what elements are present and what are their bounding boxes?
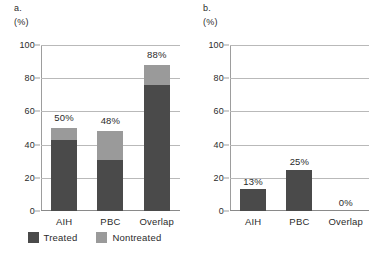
panel-a-bar-aih[interactable] (51, 128, 77, 211)
legend-label-nontreated: Nontreated (112, 232, 161, 243)
panel-a-segment-nontreated-overlap (144, 65, 170, 85)
panel-b-ytick-dash-100 (224, 45, 229, 46)
panel-b-bar-value-overlap: 0% (339, 197, 353, 208)
panel-b-plot-area: 100 80 60 40 20 0 13% AIH 25% PBC (230, 45, 369, 211)
panel-a-ytick-label-20: 20 (25, 173, 35, 183)
panel-a-ytick-dash-0 (35, 211, 40, 212)
panel-a-bar-slot-pbc: 48% PBC (87, 45, 133, 211)
panel-b-category-label-pbc: PBC (289, 216, 309, 227)
panel-a-unit-label: (%) (14, 17, 29, 27)
legend-item-treated[interactable]: Treated (28, 232, 78, 243)
panel-a-category-label-aih: AIH (56, 216, 72, 227)
legend-swatch-nontreated (96, 232, 107, 243)
panel-b-bar-slot-aih: 13% AIH (230, 45, 276, 211)
panel-b-bar-value-aih: 13% (243, 176, 263, 187)
panel-b-bar-aih[interactable] (240, 189, 266, 211)
panel-a-letter: a. (14, 3, 22, 13)
panel-a-bar-overlap[interactable] (144, 65, 170, 211)
panel-b-ytick-dash-80 (224, 78, 229, 79)
legend-label-treated: Treated (44, 232, 78, 243)
panel-a-ytick-label-80: 80 (25, 73, 35, 83)
panel-b-ytick-label-100: 100 (208, 40, 224, 50)
panel-b-segment-treated-pbc (286, 170, 312, 212)
panel-a-segment-nontreated-pbc (97, 131, 123, 159)
panel-b-ytick-dash-40 (224, 144, 229, 145)
panel-b-unit-label: (%) (203, 17, 218, 27)
panel-a-plot-area: 100 80 60 40 20 0 50% AIH 48% (41, 45, 180, 211)
panel-a: a. (%) 100 80 60 40 20 0 50% (0, 0, 189, 255)
panel-a-ytick-label-100: 100 (19, 40, 35, 50)
panel-a-ytick-label-0: 0 (30, 206, 35, 216)
panel-b-bar-pbc[interactable] (286, 170, 312, 212)
panel-b-ytick-dash-20 (224, 177, 229, 178)
legend-item-nontreated[interactable]: Nontreated (96, 232, 161, 243)
panel-a-ytick-label-60: 60 (25, 106, 35, 116)
panel-b-ytick-label-20: 20 (214, 173, 224, 183)
panel-a-bar-slot-aih: 50% AIH (41, 45, 87, 211)
panel-b-ytick-dash-60 (224, 111, 229, 112)
panel-a-ytick-dash-40 (35, 144, 40, 145)
panel-a-ytick-dash-100 (35, 45, 40, 46)
panel-a-bar-value-pbc: 48% (101, 115, 121, 126)
panel-a-segment-treated-pbc (97, 160, 123, 212)
legend: Treated Nontreated (0, 232, 189, 243)
panel-b-ytick-label-80: 80 (214, 73, 224, 83)
panel-a-ytick-dash-60 (35, 111, 40, 112)
panel-a-ytick-label-40: 40 (25, 140, 35, 150)
legend-swatch-treated (28, 232, 39, 243)
panel-a-bar-value-aih: 50% (54, 112, 74, 123)
panel-a-bar-value-overlap: 88% (147, 49, 167, 60)
panel-a-segment-treated-aih (51, 140, 77, 211)
panel-b-category-label-aih: AIH (245, 216, 261, 227)
panel-b-bar-value-pbc: 25% (290, 156, 310, 167)
panel-b-ytick-label-40: 40 (214, 140, 224, 150)
panel-a-segment-treated-overlap (144, 85, 170, 211)
panel-b-ytick-dash-0 (224, 211, 229, 212)
panel-a-category-label-overlap: Overlap (139, 216, 174, 227)
panel-b: b. (%) 100 80 60 40 20 0 13% (189, 0, 378, 255)
panel-a-ytick-dash-80 (35, 78, 40, 79)
panel-a-category-label-pbc: PBC (100, 216, 120, 227)
panel-a-segment-nontreated-aih (51, 128, 77, 140)
panel-b-letter: b. (203, 3, 211, 13)
panel-a-ytick-dash-20 (35, 177, 40, 178)
panel-a-bar-slot-overlap: 88% Overlap (134, 45, 180, 211)
panel-b-bar-slot-pbc: 25% PBC (276, 45, 322, 211)
panel-b-segment-treated-aih (240, 189, 266, 211)
panel-b-ytick-label-0: 0 (219, 206, 224, 216)
figure: a. (%) 100 80 60 40 20 0 50% (0, 0, 378, 255)
panel-b-category-label-overlap: Overlap (328, 216, 363, 227)
panel-b-bar-slot-overlap: 0% Overlap (323, 45, 369, 211)
panel-a-bar-pbc[interactable] (97, 131, 123, 211)
panel-b-ytick-label-60: 60 (214, 106, 224, 116)
